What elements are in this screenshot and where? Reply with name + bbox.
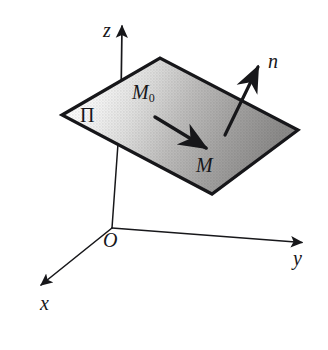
axis-z-upper-segment — [121, 26, 122, 85]
plane-diagram-figure: z n Π M0 M O y x — [0, 0, 328, 350]
axis-y-label: y — [293, 248, 302, 268]
plane-pi — [60, 56, 300, 196]
plane-texture — [60, 56, 300, 196]
figure-canvas — [0, 0, 328, 350]
origin-label: O — [103, 230, 117, 250]
axis-z-label: z — [103, 20, 111, 40]
axis-x-line — [41, 228, 112, 285]
point-m0-subscript: 0 — [149, 91, 155, 105]
point-m-label: M — [196, 155, 213, 175]
axis-z-lower-segment — [112, 138, 118, 228]
point-m0-label: M0 — [132, 82, 155, 102]
axis-x-label: x — [40, 293, 49, 313]
point-m0-letter: M — [132, 81, 149, 103]
normal-vector-label: n — [268, 51, 278, 71]
axis-y-line — [112, 228, 302, 243]
plane-label: Π — [80, 105, 94, 125]
